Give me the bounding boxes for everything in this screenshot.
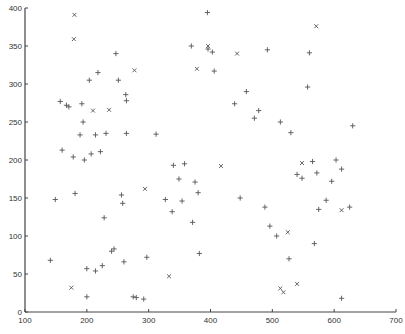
plus-marker bbox=[232, 101, 237, 106]
y-tick-label: 300 bbox=[9, 80, 23, 89]
plus-marker bbox=[124, 131, 129, 136]
plus-marker bbox=[347, 205, 352, 210]
plus-marker bbox=[244, 89, 249, 94]
plus-marker bbox=[141, 296, 146, 301]
x-marker bbox=[143, 187, 147, 191]
plus-marker bbox=[182, 161, 187, 166]
x-marker bbox=[278, 286, 282, 290]
plus-marker bbox=[58, 99, 63, 104]
plus-marker bbox=[84, 266, 89, 271]
y-tick-label: 350 bbox=[9, 42, 23, 51]
x-marker bbox=[72, 37, 76, 41]
plus-marker bbox=[103, 131, 108, 136]
plus-marker bbox=[210, 49, 215, 54]
x-marker bbox=[91, 109, 95, 113]
y-tick-label: 250 bbox=[9, 118, 23, 127]
x-tick-label: 100 bbox=[18, 316, 32, 325]
plus-marker bbox=[333, 157, 338, 162]
plus-marker bbox=[288, 130, 293, 135]
plus-marker bbox=[305, 84, 310, 89]
plus-marker bbox=[274, 233, 279, 238]
plus-marker bbox=[81, 119, 86, 124]
plus-marker bbox=[350, 123, 355, 128]
x-marker bbox=[167, 274, 171, 278]
plus-marker bbox=[190, 220, 195, 225]
x-marker bbox=[314, 24, 318, 28]
x-marker bbox=[219, 164, 223, 168]
plus-marker bbox=[256, 108, 261, 113]
plus-marker bbox=[179, 198, 184, 203]
plus-marker bbox=[238, 195, 243, 200]
y-tick-label: 0 bbox=[18, 308, 23, 317]
plus-marker bbox=[339, 296, 344, 301]
plus-marker bbox=[111, 246, 116, 251]
plus-marker bbox=[89, 151, 94, 156]
plus-marker bbox=[71, 154, 76, 159]
plus-marker bbox=[95, 70, 100, 75]
plus-marker bbox=[60, 148, 65, 153]
x-marker bbox=[73, 13, 77, 17]
plus-marker bbox=[192, 179, 197, 184]
plus-marker bbox=[84, 294, 89, 299]
plus-marker bbox=[98, 149, 103, 154]
plus-marker bbox=[119, 192, 124, 197]
plus-marker bbox=[262, 205, 267, 210]
plus-marker bbox=[120, 201, 125, 206]
plus-marker bbox=[124, 98, 129, 103]
plus-marker bbox=[123, 92, 128, 97]
x-tick-label: 200 bbox=[80, 316, 94, 325]
plot-area: 100200300400500600700 050100150200250300… bbox=[0, 0, 405, 334]
plus-marker bbox=[294, 172, 299, 177]
plus-marker bbox=[170, 209, 175, 214]
plus-marker bbox=[278, 119, 283, 124]
plus-marker bbox=[79, 101, 84, 106]
x-tick-label: 300 bbox=[142, 316, 156, 325]
plus-marker bbox=[286, 256, 291, 261]
x-marker bbox=[300, 161, 304, 165]
plus-marker bbox=[102, 215, 107, 220]
plus-marker bbox=[131, 294, 136, 299]
plus-marker bbox=[197, 251, 202, 256]
plus-marker bbox=[93, 132, 98, 137]
x-tick-label: 500 bbox=[266, 316, 280, 325]
plus-marker bbox=[109, 249, 114, 254]
plus-marker bbox=[153, 132, 158, 137]
plus-marker bbox=[310, 159, 315, 164]
x-marker bbox=[286, 230, 290, 234]
plus-marker bbox=[77, 132, 82, 137]
plus-marker bbox=[212, 68, 217, 73]
y-tick-label: 200 bbox=[9, 156, 23, 165]
plus-marker bbox=[171, 163, 176, 168]
x-marker bbox=[195, 67, 199, 71]
x-marker bbox=[132, 68, 136, 72]
x-marker bbox=[295, 282, 299, 286]
plus-marker bbox=[134, 295, 139, 300]
plus-marker bbox=[100, 263, 105, 268]
plus-marker bbox=[196, 190, 201, 195]
x-marker bbox=[340, 208, 344, 212]
plus-marker bbox=[72, 191, 77, 196]
plus-marker bbox=[299, 176, 304, 181]
plus-marker bbox=[121, 259, 126, 264]
plus-marker bbox=[48, 258, 53, 263]
axes bbox=[25, 8, 396, 312]
plus-marker bbox=[307, 50, 312, 55]
plus-marker bbox=[339, 167, 344, 172]
plus-marker bbox=[324, 198, 329, 203]
x-marker bbox=[69, 286, 73, 290]
x-tick-label: 700 bbox=[389, 316, 403, 325]
x-tick-label: 600 bbox=[327, 316, 341, 325]
plus-marker bbox=[163, 197, 168, 202]
plus-marker bbox=[252, 116, 257, 121]
plus-marker bbox=[314, 170, 319, 175]
plus-marker bbox=[189, 43, 194, 48]
plus-marker bbox=[82, 157, 87, 162]
plus-marker bbox=[93, 268, 98, 273]
plus-marker bbox=[312, 241, 317, 246]
plus-marker bbox=[267, 224, 272, 229]
x-marker bbox=[107, 108, 111, 112]
plus-marker bbox=[87, 78, 92, 83]
plus-marker bbox=[205, 10, 210, 15]
plus-marker bbox=[113, 51, 118, 56]
scatter-chart: 100200300400500600700 050100150200250300… bbox=[0, 0, 405, 334]
